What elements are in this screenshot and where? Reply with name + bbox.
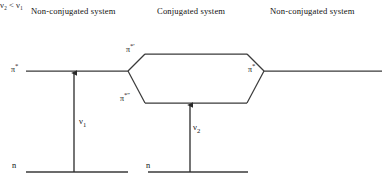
column-header-right: Non-conjugated system (270, 6, 355, 16)
nu-subscript: 1 (83, 121, 86, 128)
nu-subscript: 2 (197, 127, 200, 134)
pi-superscript: * (252, 62, 255, 69)
level-label-pistar-right: π* (248, 65, 255, 74)
pi-superscript: *″ (124, 91, 130, 98)
level-label-pistar-left: π* (11, 65, 18, 74)
level-label-pistar-double-prime: π*″ (120, 94, 130, 103)
pi-superscript: *′ (130, 42, 135, 49)
energy-level-diagram (0, 0, 388, 183)
transition-label-nu1: ν1 (79, 116, 86, 126)
level-label-pistar-prime: π*′ (126, 45, 135, 54)
level-label-n-left: n (12, 161, 16, 170)
column-header-middle: Conjugated system (157, 6, 225, 16)
correlation-line-right-lower (247, 71, 264, 103)
column-header-left: Non-conjugated system (31, 6, 116, 16)
figure-canvas: Non-conjugated system Conjugated system … (0, 0, 388, 183)
pi-superscript: * (15, 62, 18, 69)
transition-label-nu2: ν2 (193, 122, 200, 132)
level-label-n-right: n (146, 161, 150, 170)
correlation-line-left-upper (128, 54, 145, 71)
correlation-line-left-lower (128, 71, 145, 103)
